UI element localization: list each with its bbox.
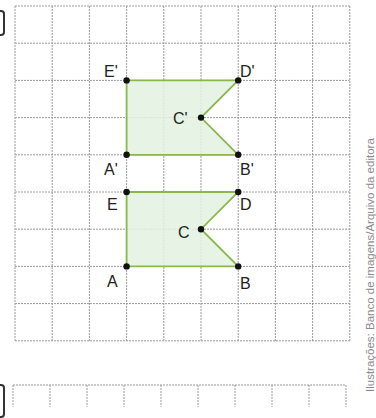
label-d-prime: D' [240,64,255,80]
label-a: A [107,274,118,290]
label-a-prime: A' [104,162,118,178]
label-b: B [240,276,251,292]
second-grid-lines [13,385,346,407]
label-c: C [178,225,190,241]
grid-lines [15,6,350,341]
label-b-prime: B' [240,162,254,178]
label-d: D [240,197,252,213]
label-e: E [107,197,118,213]
label-c-prime: C' [173,111,188,127]
label-e-prime: E' [104,64,118,80]
image-credit: Ilustrações: Banco de imagens/Arquivo da… [364,138,376,392]
